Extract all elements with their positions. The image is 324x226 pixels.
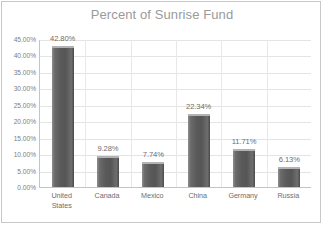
y-axis-tick-label: 0.00%	[2, 184, 36, 192]
y-axis-tick-label: 40.00%	[2, 52, 36, 60]
bar-slot: 7.74%	[131, 40, 176, 187]
bar-value-label: 6.13%	[279, 155, 300, 164]
bar-value-label: 11.71%	[232, 137, 257, 146]
x-axis-tick-label: Canada	[84, 191, 129, 201]
y-axis-tick-label: 30.00%	[2, 85, 36, 93]
chart-container: Percent of Sunrise Fund 45.00%40.00%35.0…	[1, 1, 321, 223]
bar-value-label: 22.34%	[186, 102, 211, 111]
chart-title: Percent of Sunrise Fund	[2, 7, 322, 22]
bar-slot: 9.28%	[85, 40, 130, 187]
bar-canada[interactable]	[97, 156, 119, 187]
bar-china[interactable]	[188, 114, 210, 187]
y-axis-tick-label: 25.00%	[2, 102, 36, 110]
bar-value-label: 42.80%	[50, 34, 75, 43]
y-axis-tick-label: 20.00%	[2, 118, 36, 126]
bar-slot: 6.13%	[267, 40, 312, 187]
bar-value-label: 9.28%	[97, 144, 118, 153]
x-axis-tick-label: Russia	[266, 191, 311, 201]
x-axis: UnitedStatesCanadaMexicoChinaGermanyRuss…	[39, 191, 311, 221]
bar-russia[interactable]	[278, 167, 300, 187]
bar-slot: 11.71%	[221, 40, 266, 187]
bar-united-states[interactable]	[52, 46, 74, 187]
plot-area: 42.80%9.28%7.74%22.34%11.71%6.13%	[39, 40, 311, 188]
x-axis-tick-label: China	[175, 191, 220, 201]
bar-slot: 42.80%	[40, 40, 85, 187]
y-axis-tick-label: 45.00%	[2, 36, 36, 44]
y-axis-tick-label: 15.00%	[2, 135, 36, 143]
bar-value-label: 7.74%	[143, 150, 164, 159]
x-axis-tick-label: Germany	[220, 191, 265, 201]
y-axis-tick-label: 35.00%	[2, 69, 36, 77]
bar-slot: 22.34%	[176, 40, 221, 187]
x-axis-tick-label: UnitedStates	[39, 191, 84, 210]
y-axis-tick-label: 5.00%	[2, 168, 36, 176]
x-axis-tick-label: Mexico	[130, 191, 175, 201]
bar-mexico[interactable]	[142, 162, 164, 187]
bar-germany[interactable]	[233, 149, 255, 188]
y-axis-tick-label: 10.00%	[2, 151, 36, 159]
y-axis: 45.00%40.00%35.00%30.00%25.00%20.00%15.0…	[2, 40, 36, 188]
